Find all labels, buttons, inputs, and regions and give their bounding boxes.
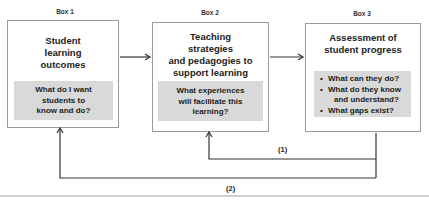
feedback-loop-1-label: (1) xyxy=(278,145,287,154)
connector-arrows xyxy=(0,0,429,201)
feedback-loop-2 xyxy=(60,129,376,178)
feedback-loop-2-label: (2) xyxy=(226,184,235,193)
feedback-loop-1 xyxy=(209,133,376,159)
